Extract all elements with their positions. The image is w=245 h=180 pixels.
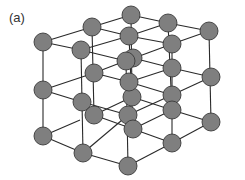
atom (163, 134, 181, 152)
atom (83, 18, 101, 36)
lattice-atoms (34, 6, 220, 175)
atom (202, 68, 220, 86)
atom (202, 113, 220, 131)
crystal-lattice-diagram (0, 0, 245, 180)
atom (163, 59, 181, 77)
atom (74, 144, 92, 162)
atom (120, 73, 138, 91)
atom (159, 14, 177, 32)
atom (119, 157, 137, 175)
atom (163, 101, 181, 119)
atom (122, 6, 140, 24)
atom (163, 35, 181, 53)
atom (85, 64, 103, 82)
atom (85, 106, 103, 124)
atom (120, 27, 138, 45)
atom (34, 33, 52, 51)
atom (200, 22, 218, 40)
atom (34, 127, 52, 145)
atom (124, 120, 142, 138)
atom (34, 81, 52, 99)
atom (117, 52, 135, 70)
atom (72, 41, 90, 59)
